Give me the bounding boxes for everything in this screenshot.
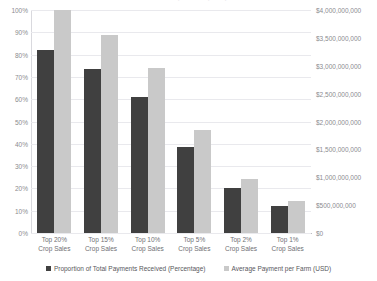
legend-swatch-icon xyxy=(46,266,51,271)
left-axis-tick-label: 60% xyxy=(2,96,28,103)
right-axis-tick-label: $2,000,000,000 xyxy=(316,118,377,125)
bar-average-payment-per-farm[interactable] xyxy=(54,10,71,233)
left-axis-tick-label: 50% xyxy=(2,118,28,125)
bar-group xyxy=(171,10,218,233)
x-axis-category-labels: Top 20% Crop SalesTop 15% Crop SalesTop … xyxy=(31,236,311,253)
bar-group xyxy=(31,10,78,233)
bar-groups xyxy=(31,10,311,233)
legend-item[interactable]: Average Payment per Farm (USD) xyxy=(224,265,332,272)
bar-chart: Concentration of Farm Payments by Crop S… xyxy=(0,0,377,281)
right-axis-tick-label: $500,000,000 xyxy=(316,202,377,209)
bar-proportion-of-total-payments[interactable] xyxy=(131,97,148,233)
chart-title: Concentration of Farm Payments by Crop S… xyxy=(0,0,377,1)
bar-average-payment-per-farm[interactable] xyxy=(241,179,258,233)
left-axis-tick-label: 80% xyxy=(2,51,28,58)
legend-label: Average Payment per Farm (USD) xyxy=(232,265,332,272)
left-axis-tick-label: 40% xyxy=(2,140,28,147)
bar-group xyxy=(124,10,171,233)
legend-swatch-icon xyxy=(224,266,229,271)
right-axis-tick-label: $3,000,000,000 xyxy=(316,62,377,69)
left-axis-tick-label: 20% xyxy=(2,185,28,192)
x-axis-category-label: Top 2% Crop Sales xyxy=(218,236,265,253)
bar-proportion-of-total-payments[interactable] xyxy=(84,69,101,233)
legend-label: Proportion of Total Payments Received (P… xyxy=(54,265,206,272)
right-axis-tick-label: $0 xyxy=(316,230,377,237)
bar-group xyxy=(78,10,125,233)
left-axis-tick-label: 70% xyxy=(2,73,28,80)
left-axis-tick-label: 0% xyxy=(2,230,28,237)
legend-item[interactable]: Proportion of Total Payments Received (P… xyxy=(46,265,206,272)
x-axis-category-label: Top 5% Crop Sales xyxy=(171,236,218,253)
bar-average-payment-per-farm[interactable] xyxy=(288,201,305,233)
bar-proportion-of-total-payments[interactable] xyxy=(177,147,194,233)
left-axis-tick-label: 10% xyxy=(2,207,28,214)
bar-average-payment-per-farm[interactable] xyxy=(194,130,211,233)
x-axis-category-label: Top 20% Crop Sales xyxy=(31,236,78,253)
chart-legend: Proportion of Total Payments Received (P… xyxy=(0,265,377,272)
bar-proportion-of-total-payments[interactable] xyxy=(271,206,288,233)
right-axis-tick-label: $1,500,000,000 xyxy=(316,146,377,153)
bar-proportion-of-total-payments[interactable] xyxy=(37,50,54,233)
left-axis-tick-label: 90% xyxy=(2,29,28,36)
bar-group xyxy=(264,10,311,233)
x-axis-category-label: Top 10% Crop Sales xyxy=(124,236,171,253)
bar-average-payment-per-farm[interactable] xyxy=(101,35,118,233)
bar-group xyxy=(218,10,265,233)
left-axis-tick-label: 100% xyxy=(2,7,28,14)
right-axis-tick-label: $4,000,000,000 xyxy=(316,7,377,14)
gridline xyxy=(31,233,311,234)
x-axis-category-label: Top 15% Crop Sales xyxy=(78,236,125,253)
right-axis-tick-label: $2,500,000,000 xyxy=(316,90,377,97)
left-axis-tick-label: 30% xyxy=(2,163,28,170)
x-axis-category-label: Top 1% Crop Sales xyxy=(264,236,311,253)
bar-proportion-of-total-payments[interactable] xyxy=(224,188,241,233)
right-axis-tick-label: $1,000,000,000 xyxy=(316,174,377,181)
right-axis-tick-label: $3,500,000,000 xyxy=(316,34,377,41)
bar-average-payment-per-farm[interactable] xyxy=(148,68,165,233)
